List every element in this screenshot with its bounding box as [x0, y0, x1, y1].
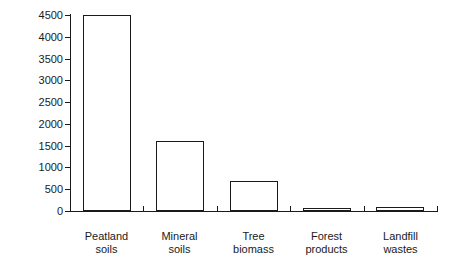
y-axis-tick-label: 0 [57, 206, 63, 217]
x-axis-category-label: Peatlandsoils [70, 230, 143, 256]
y-axis-tick-label: 500 [45, 184, 63, 195]
y-axis-line [70, 14, 71, 212]
y-axis-tick-mark [65, 146, 70, 147]
bar [83, 15, 131, 211]
x-axis-category-label: Landfillwastes [364, 230, 437, 256]
x-axis-category-label-line: biomass [217, 243, 290, 256]
y-axis-tick-mark [65, 15, 70, 16]
x-axis-tick-mark [364, 206, 365, 212]
bar-chart: Carbon (Mt) 0500100015002000250030003500… [0, 0, 455, 261]
x-axis-category-label-line: Forest [290, 230, 363, 243]
plot-area: 050010001500200025003000350040004500 Pea… [70, 14, 437, 212]
x-axis-tick-mark [290, 206, 291, 212]
x-axis-category-label-line: Mineral [143, 230, 216, 243]
y-axis-tick-mark [65, 102, 70, 103]
x-axis-category-label-line: products [290, 243, 363, 256]
bar [376, 207, 424, 211]
x-axis-category-label-line: Peatland [70, 230, 143, 243]
y-axis-tick-label: 3000 [39, 75, 63, 86]
x-axis-line [70, 211, 437, 212]
y-axis-tick-mark [65, 59, 70, 60]
x-axis-category-label-line: soils [143, 243, 216, 256]
y-axis-tick-label: 4500 [39, 10, 63, 21]
y-axis-tick-label: 2000 [39, 118, 63, 129]
bar [156, 141, 204, 211]
y-axis-tick-mark [65, 189, 70, 190]
y-axis-tick-mark [65, 37, 70, 38]
bar [303, 208, 351, 211]
y-axis-tick-mark [65, 80, 70, 81]
x-axis-category-label: Treebiomass [217, 230, 290, 256]
y-axis-tick-mark [65, 124, 70, 125]
x-axis-tick-mark [437, 206, 438, 212]
y-axis-tick-label: 3500 [39, 53, 63, 64]
x-axis-tick-mark [70, 206, 71, 212]
x-axis-tick-mark [217, 206, 218, 212]
y-axis-tick-label: 1000 [39, 162, 63, 173]
y-axis-tick-label: 4000 [39, 31, 63, 42]
x-axis-category-label-line: Landfill [364, 230, 437, 243]
y-axis-title: Carbon (Mt) [2, 0, 24, 22]
x-axis-category-label-line: Tree [217, 230, 290, 243]
y-axis-tick-mark [65, 167, 70, 168]
x-axis-category-label: Forestproducts [290, 230, 363, 256]
x-axis-category-label-line: soils [70, 243, 143, 256]
x-axis-category-label: Mineralsoils [143, 230, 216, 256]
x-axis-tick-mark [143, 206, 144, 212]
y-axis-tick-label: 2500 [39, 97, 63, 108]
bar [230, 181, 278, 211]
y-axis-tick-label: 1500 [39, 140, 63, 151]
x-axis-category-label-line: wastes [364, 243, 437, 256]
